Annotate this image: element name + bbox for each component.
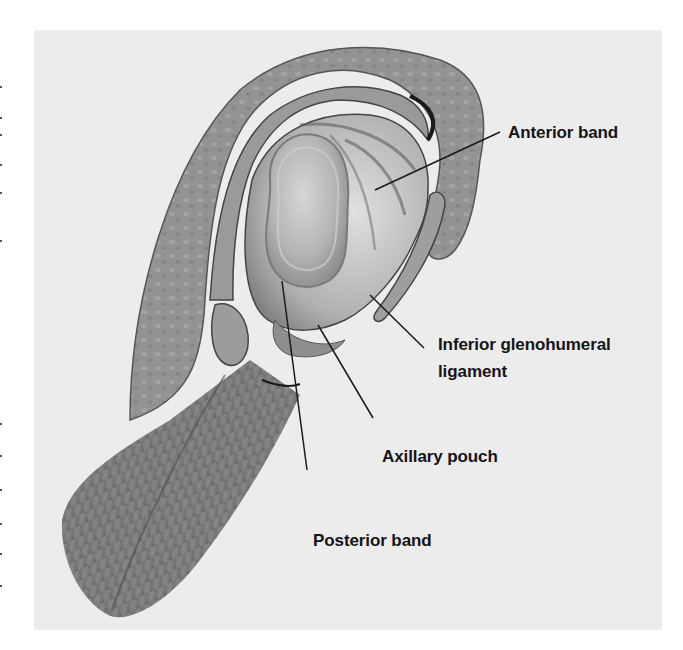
shoulder-anatomy-illustration <box>0 0 683 650</box>
label-posterior-band: Posterior band <box>313 531 432 551</box>
arm-muscle <box>62 360 300 617</box>
glenoid-lobe <box>212 304 249 366</box>
label-anterior-band: Anterior band <box>508 123 618 143</box>
label-inferior-glenohumeral-line2: ligament <box>438 362 507 382</box>
label-inferior-glenohumeral-line1: Inferior glenohumeral <box>438 335 611 355</box>
leader-axillary-pouch <box>318 325 373 418</box>
label-axillary-pouch: Axillary pouch <box>382 447 498 467</box>
